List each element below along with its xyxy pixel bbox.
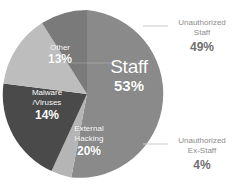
callout-unauthorized-ex-staff: Unauthorized Ex-Staff 4% (170, 136, 234, 173)
pie-chart-figure: Staff 53% Other 13% Malware /Viruses 14%… (0, 0, 235, 188)
callout-unauthorized-staff-value: 49% (170, 40, 234, 55)
callout-unauthorized-staff: Unauthorized Staff 49% (170, 18, 234, 55)
callout-unauthorized-staff-name-line2: Staff (170, 28, 234, 38)
callout-unauthorized-ex-staff-name-line2: Ex-Staff (170, 146, 234, 156)
callout-unauthorized-ex-staff-name-line1: Unauthorized (170, 136, 234, 146)
callout-unauthorized-ex-staff-value: 4% (170, 158, 234, 173)
callout-unauthorized-staff-name-line1: Unauthorized (170, 18, 234, 28)
